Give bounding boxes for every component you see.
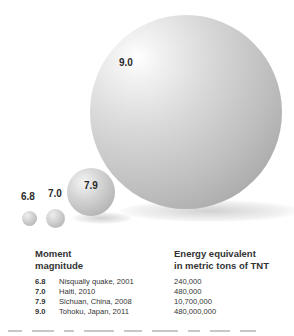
row-energy: 10,700,000 (174, 297, 212, 307)
sphere-7-0 (46, 209, 65, 228)
table-row: 9.0 Tohoku, Japan, 2011 480,000,000 (35, 307, 285, 317)
row-energy: 480,000 (174, 287, 201, 297)
energy-header: Energy equivalent in metric tons of TNT (174, 248, 269, 272)
row-energy: 240,000 (174, 277, 201, 287)
magnitude-header-line2: magnitude (35, 260, 83, 272)
row-energy: 480,000,000 (174, 307, 216, 317)
table-row: 7.0 Haiti, 2010 480,000 (35, 287, 285, 297)
row-event: Tohoku, Japan, 2011 (59, 307, 174, 317)
table-row: 6.8 Nisqually quake, 2001 240,000 (35, 277, 285, 287)
magnitude-header-line1: Moment (35, 248, 83, 260)
sphere-6-8 (22, 211, 37, 226)
row-magnitude: 9.0 (35, 307, 59, 317)
cut-off-text-line (0, 330, 294, 334)
row-magnitude: 7.0 (35, 287, 59, 297)
energy-header-line2: in metric tons of TNT (174, 260, 269, 272)
sphere-7-9 (67, 168, 115, 216)
energy-header-line1: Energy equivalent (174, 248, 269, 260)
row-event: Nisqually quake, 2001 (59, 277, 174, 287)
row-magnitude: 7.9 (35, 297, 59, 307)
magnitude-header: Moment magnitude (35, 248, 83, 272)
sphere-label-7-0: 7.0 (48, 188, 62, 199)
data-table: 6.8 Nisqually quake, 2001 240,000 7.0 Ha… (35, 277, 285, 317)
table-row: 7.9 Sichuan, China, 2008 10,700,000 (35, 297, 285, 307)
sphere-9-0 (90, 15, 282, 209)
row-magnitude: 6.8 (35, 277, 59, 287)
row-event: Sichuan, China, 2008 (59, 297, 174, 307)
sphere-label-9-0: 9.0 (119, 57, 133, 68)
sphere-label-6-8: 6.8 (21, 191, 35, 202)
sphere-label-7-9: 7.9 (84, 180, 98, 191)
row-event: Haiti, 2010 (59, 287, 174, 297)
